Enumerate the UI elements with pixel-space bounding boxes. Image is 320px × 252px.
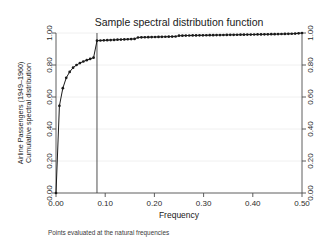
- data-point: [280, 33, 283, 36]
- y-tick-label-right: 0.80: [306, 57, 315, 73]
- data-point: [301, 32, 304, 35]
- data-point: [260, 33, 263, 36]
- data-point: [215, 34, 218, 37]
- y-tick-label-left: 0.60: [45, 89, 54, 105]
- data-point: [208, 34, 211, 37]
- data-point: [205, 34, 208, 37]
- data-point: [222, 34, 225, 37]
- data-point: [102, 39, 105, 42]
- data-point: [270, 33, 273, 36]
- data-point: [130, 38, 133, 41]
- data-point: [75, 64, 78, 67]
- chart-footnote: Points evaluated at the natural frequenc…: [48, 229, 169, 237]
- chart-title: Sample spectral distribution function: [95, 16, 264, 28]
- data-point: [68, 71, 71, 74]
- y-tick-label-left: 1.00: [45, 25, 54, 41]
- data-point: [263, 33, 266, 36]
- y-tick-label-right: 0.20: [306, 153, 315, 169]
- x-tick-label: 0.50: [294, 199, 310, 208]
- data-point: [161, 35, 164, 38]
- y-tick-label-left: 0.20: [45, 153, 54, 169]
- data-point: [198, 34, 201, 37]
- data-point: [277, 33, 280, 36]
- data-point: [232, 33, 235, 36]
- data-point: [164, 35, 167, 38]
- data-point: [154, 36, 157, 39]
- data-point: [133, 38, 136, 41]
- data-point: [123, 38, 126, 41]
- data-point: [294, 32, 297, 35]
- data-point: [72, 66, 75, 69]
- data-point: [287, 33, 290, 36]
- data-point: [236, 33, 239, 36]
- data-point: [109, 39, 112, 42]
- y-axis-title-line2: Cumulative spectral distribution: [24, 63, 33, 163]
- data-point: [249, 33, 252, 36]
- data-point: [171, 35, 174, 38]
- data-point: [143, 36, 146, 39]
- data-point: [202, 34, 205, 37]
- data-point: [212, 34, 215, 37]
- data-point: [137, 36, 140, 39]
- data-point: [116, 38, 119, 41]
- x-tick-label: 0.00: [48, 199, 64, 208]
- data-point: [178, 34, 181, 37]
- data-point: [120, 38, 123, 41]
- data-point: [284, 33, 287, 36]
- data-point: [58, 104, 61, 107]
- data-point: [140, 36, 143, 39]
- data-point: [65, 76, 68, 79]
- data-point: [188, 34, 191, 37]
- data-point: [219, 34, 222, 37]
- data-point: [181, 34, 184, 37]
- data-point: [266, 33, 269, 36]
- data-point: [147, 36, 150, 39]
- y-tick-label-left: 0.80: [45, 57, 54, 73]
- x-tick-label: 0.10: [97, 199, 113, 208]
- x-tick-label: 0.40: [245, 199, 261, 208]
- data-point: [174, 35, 177, 38]
- data-point: [99, 39, 102, 42]
- data-point: [96, 39, 99, 42]
- data-point: [273, 33, 276, 36]
- data-point: [246, 33, 249, 36]
- data-point: [92, 56, 95, 59]
- y-tick-label-left: 0.40: [45, 121, 54, 137]
- y-tick-label-right: 0.60: [306, 89, 315, 105]
- data-point: [256, 33, 259, 36]
- data-point: [113, 39, 116, 42]
- data-point: [253, 33, 256, 36]
- data-point: [106, 39, 109, 42]
- x-axis-title: Frequency: [159, 210, 200, 220]
- data-point: [290, 32, 293, 35]
- data-point: [61, 87, 64, 90]
- data-point: [184, 34, 187, 37]
- data-point: [85, 59, 88, 62]
- data-point: [82, 60, 85, 63]
- x-tick-label: 0.30: [196, 199, 212, 208]
- data-point: [229, 34, 232, 37]
- data-point: [225, 34, 228, 37]
- data-point: [239, 33, 242, 36]
- x-tick-label: 0.20: [147, 199, 163, 208]
- data-point: [157, 36, 160, 39]
- data-point: [167, 35, 170, 38]
- data-point: [297, 32, 300, 35]
- data-point: [126, 38, 129, 41]
- data-point: [55, 192, 58, 195]
- data-point: [243, 33, 246, 36]
- data-point: [89, 58, 92, 61]
- data-point: [191, 34, 194, 37]
- chart-figure: 0.000.200.400.600.801.00 0.000.200.400.6…: [0, 0, 320, 252]
- y-tick-label-right: 0.40: [306, 121, 315, 137]
- data-point: [79, 62, 82, 65]
- data-point: [195, 34, 198, 37]
- data-point: [150, 36, 153, 39]
- spectral-distribution-chart: 0.000.200.400.600.801.00 0.000.200.400.6…: [0, 0, 320, 252]
- y-tick-label-right: 1.00: [306, 25, 315, 41]
